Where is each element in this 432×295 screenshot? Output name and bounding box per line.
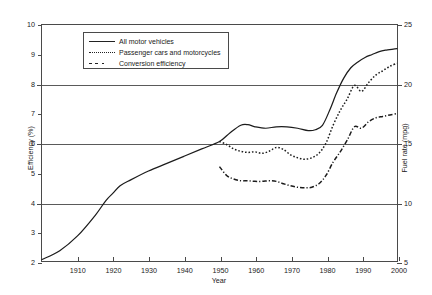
y-tick-right <box>397 85 402 86</box>
x-tick-label: 1940 <box>177 267 193 274</box>
legend-line-swatch-icon <box>89 38 115 46</box>
y-tick-label-left: 7 <box>31 111 35 118</box>
y-tick-label-left: 5 <box>31 170 35 177</box>
y-tick-right <box>397 144 402 145</box>
series-line <box>42 49 397 260</box>
y-tick-right <box>397 25 402 26</box>
x-tick-label: 1970 <box>284 267 300 274</box>
y-tick-label-left: 9 <box>31 51 35 58</box>
y-tick-label-left: 10 <box>27 21 35 28</box>
y-tick-label-right: 15 <box>404 140 412 147</box>
x-tick-label: 1960 <box>248 267 264 274</box>
x-tick-label: 1950 <box>213 267 229 274</box>
chart-root: Efficiency (%) Fuel rate (mpg) Year 2345… <box>0 0 432 295</box>
x-tick-label: 1980 <box>320 267 336 274</box>
legend-item-label: All motor vehicles <box>115 38 174 45</box>
y-tick-label-left: 6 <box>31 140 35 147</box>
y-tick-label-left: 4 <box>31 200 35 207</box>
y-tick-label-left: 2 <box>31 259 35 266</box>
y-tick-label-right: 20 <box>404 81 412 88</box>
x-tick-label: 1930 <box>141 267 157 274</box>
x-tick-label: 2000 <box>391 267 407 274</box>
y-tick-label-right: 25 <box>404 21 412 28</box>
x-tick-label: 1920 <box>105 267 121 274</box>
legend-line-swatch-icon <box>89 49 115 57</box>
legend-item-label: Passenger cars and motorcycles <box>115 49 221 56</box>
y-tick-label-left: 3 <box>31 230 35 237</box>
legend-item: All motor vehicles <box>89 36 228 47</box>
x-axis-title: Year <box>212 277 227 284</box>
x-tick-label: 1910 <box>70 267 86 274</box>
legend-line-swatch-icon <box>89 60 115 68</box>
chart-legend: All motor vehiclesPassenger cars and mot… <box>83 32 229 69</box>
series-line <box>220 63 398 159</box>
x-tick-label: 1990 <box>355 267 371 274</box>
legend-item: Passenger cars and motorcycles <box>89 47 228 58</box>
legend-item: Conversion efficiency <box>89 58 228 69</box>
y-tick-right <box>397 263 402 264</box>
y-tick-right <box>397 204 402 205</box>
x-tick <box>399 257 400 261</box>
y-tick-left <box>38 263 42 264</box>
legend-item-label: Conversion efficiency <box>115 60 185 67</box>
y-tick-label-left: 8 <box>31 81 35 88</box>
y-tick-label-right: 10 <box>404 200 412 207</box>
